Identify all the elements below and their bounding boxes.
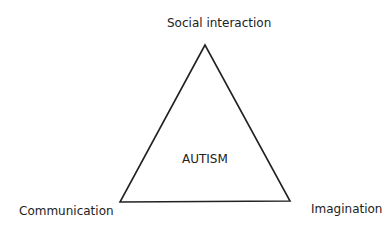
vertex-label-bottom-right: Imagination bbox=[311, 202, 382, 216]
center-label: AUTISM bbox=[182, 152, 228, 166]
triad-triangle bbox=[0, 0, 390, 230]
vertex-label-bottom-left: Communication bbox=[19, 204, 114, 218]
vertex-label-top: Social interaction bbox=[167, 16, 271, 30]
